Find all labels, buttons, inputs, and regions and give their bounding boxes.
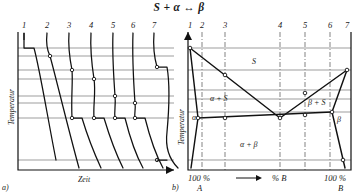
node-eutectic-5 xyxy=(303,113,307,117)
curve-number: 3 xyxy=(66,20,71,30)
phase-label-alpha-plus-s: α + S xyxy=(210,94,228,103)
alloy-number: 7 xyxy=(345,20,350,30)
liquidus-line xyxy=(190,48,347,118)
panel-b-x-axis-label: % B xyxy=(272,173,286,183)
cooling-curve-4 xyxy=(91,33,123,168)
panel-a-x-axis-label: Zeit xyxy=(78,175,91,184)
solidus-right-line xyxy=(332,70,347,112)
panel-a-label: a) xyxy=(2,183,9,192)
node-pure-a-melting xyxy=(188,46,192,50)
left-component-label: A xyxy=(196,183,203,193)
left-composition-percent: 100 % xyxy=(188,173,210,183)
panel-b-alloy-numbers: 1 2 3 4 5 6 7 xyxy=(188,20,350,30)
phase-label-beta: β xyxy=(336,115,341,124)
phase-label-alpha-plus-beta: α + β xyxy=(240,140,258,149)
alloy-number: 3 xyxy=(222,20,227,30)
time-axis-arrowhead xyxy=(166,166,174,174)
temperature-axis-arrowhead xyxy=(184,32,192,40)
phase-boundaries xyxy=(190,48,347,168)
figure-canvas: 1 2 3 4 5 6 7 Temperatur Zeit a) xyxy=(0,0,358,193)
phase-label-beta-plus-s: β + S xyxy=(307,98,325,107)
node-eutectic-3 xyxy=(223,116,227,120)
panel-a-axis-lines xyxy=(18,32,174,170)
curve-number: 2 xyxy=(45,20,50,30)
node-pure-b-melting xyxy=(345,68,349,72)
alloy-number: 2 xyxy=(200,20,205,30)
cooling-curve-5 xyxy=(113,33,143,168)
panel-a-group: 1 2 3 4 5 6 7 Temperatur Zeit a) xyxy=(2,20,178,192)
cooling-curve-6 xyxy=(133,33,163,168)
panel-a-guide-lines xyxy=(18,48,174,160)
phase-region-labels: S α + S β + S α β α + β xyxy=(192,57,341,149)
panel-b-y-axis-label: Temperatur xyxy=(177,108,186,145)
right-composition-percent: 100 % xyxy=(324,173,346,183)
curve-number: 5 xyxy=(111,20,115,30)
node-eutectic-point xyxy=(278,116,282,120)
alloy-number: 5 xyxy=(303,20,307,30)
panel-a-y-axis-label: Temperatur xyxy=(7,88,16,125)
alloy-number: 1 xyxy=(188,20,192,30)
panel-b-label: b) xyxy=(172,183,179,192)
node-solvus-right-7 xyxy=(341,158,345,162)
alloy-number: 6 xyxy=(328,20,333,30)
curve-number: 7 xyxy=(152,20,157,30)
node-liquidus-5 xyxy=(303,91,307,95)
node-beta-solidus xyxy=(330,110,334,114)
solidus-left-line xyxy=(190,48,198,118)
panel-a-curve-numbers: 1 2 3 4 5 6 7 xyxy=(22,20,157,30)
phase-label-liquid: S xyxy=(252,57,256,66)
curve-number: 4 xyxy=(89,20,94,30)
node-liquidus-3 xyxy=(223,73,227,77)
cooling-curve-7 xyxy=(154,33,178,168)
right-component-label: B xyxy=(338,183,343,193)
solvus-left-line xyxy=(191,118,198,168)
curve-number: 1 xyxy=(22,20,26,30)
cooling-curve-1 xyxy=(24,33,56,160)
node-alpha-max-solubility xyxy=(196,116,200,120)
cooling-curve-2 xyxy=(47,33,79,168)
eutectic-line xyxy=(198,112,332,118)
alloy-number: 4 xyxy=(278,20,283,30)
curve-number: 6 xyxy=(131,20,136,30)
panel-b-group: S α + S β + S α β α + β 1 2 3 4 5 6 7 Te… xyxy=(172,20,351,193)
composition-axis-arrowhead xyxy=(256,175,262,181)
